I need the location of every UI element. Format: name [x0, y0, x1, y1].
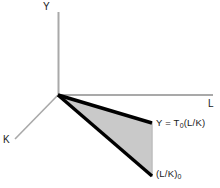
l-axis-label: L: [208, 99, 214, 109]
k-axis-label: K: [3, 135, 10, 145]
ratio-label: (L/K)0: [156, 169, 182, 179]
frontier-label-tail: (L/K): [184, 117, 206, 128]
figure-canvas: [0, 0, 220, 188]
ratio-label-subscript: 0: [178, 173, 182, 180]
ratio-label-head: (L/K): [156, 168, 178, 179]
technology-frontier-figure: Y L K Y = T0(L/K) (L/K)0: [0, 0, 220, 188]
frontier-function-label: Y = T0(L/K): [156, 118, 205, 128]
frontier-label-subscript: 0: [180, 122, 184, 129]
k-axis-line: [15, 95, 58, 139]
frontier-label-head: Y = T: [156, 117, 180, 128]
y-axis-label: Y: [43, 2, 50, 12]
